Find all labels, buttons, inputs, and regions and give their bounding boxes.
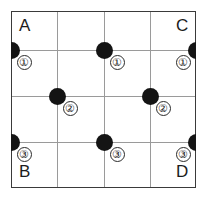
grid-frame (11, 11, 196, 188)
node-label: ③ (110, 147, 125, 162)
gridline-vertical-1 (57, 12, 58, 187)
corner-label-d: D (176, 163, 188, 180)
node-label: ③ (17, 147, 32, 162)
gridline-horizontal-3 (12, 142, 195, 143)
node-label: ① (110, 55, 125, 70)
corner-label-b: B (19, 163, 30, 180)
gridline-horizontal-1 (12, 50, 195, 51)
gridline-vertical-3 (150, 12, 151, 187)
node-label: ① (17, 55, 32, 70)
grid-diagram-canvas: ① ① ① ② ② ③ ③ ③ A C B D (0, 0, 208, 198)
node-label: ② (63, 101, 78, 116)
corner-label-a: A (19, 17, 30, 34)
node-label: ③ (176, 147, 191, 162)
node-label: ② (156, 101, 171, 116)
corner-label-c: C (176, 17, 188, 34)
gridline-vertical-2 (104, 12, 105, 187)
node-label: ① (176, 55, 191, 70)
gridline-horizontal-2 (12, 96, 195, 97)
